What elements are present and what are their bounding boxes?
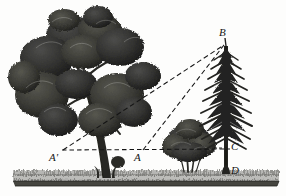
tree-height-diagram-figure: B A' A C D — [0, 0, 286, 196]
point-label-D: D — [231, 165, 239, 176]
point-label-A: A — [134, 152, 141, 163]
point-label-B: B — [219, 27, 226, 38]
figure-canvas — [0, 0, 286, 196]
ground-base-slab — [13, 181, 279, 186]
point-label-C: C — [231, 141, 238, 152]
grassy-ground-strip — [13, 170, 279, 186]
point-label-A-prime: A' — [49, 152, 58, 163]
oak-ground-sprig — [111, 156, 125, 168]
